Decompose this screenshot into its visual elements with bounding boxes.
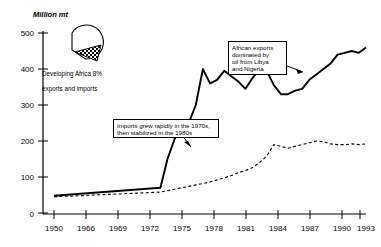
x-tick-1978: 1978 — [205, 224, 223, 233]
x-tick-1972: 1972 — [141, 224, 159, 233]
y-tick-100: 100 — [21, 173, 35, 182]
y-tick-500: 500 — [21, 29, 35, 38]
imports-callout-line-1: Imports grew rapidly in the 1970s, — [117, 122, 215, 129]
pie-caption-line-1: Developing Africa 8% — [42, 70, 102, 78]
x-axis-tick-labels: 1950 1966 1969 1972 1975 1978 1981 1984 … — [45, 224, 375, 233]
imports-callout-box: Imports grew rapidly in the 1970s, then … — [113, 119, 219, 138]
pie-caption: Developing Africa 8% exports and imports — [42, 62, 102, 100]
y-tick-200: 200 — [21, 137, 35, 146]
imports-callout-line-2: then stabilized in the 1980s — [117, 129, 215, 136]
chart-container: Million mt 500 400 300 200 100 0 — [0, 0, 381, 247]
x-tick-1993: 1993 — [357, 224, 375, 233]
x-tick-1969: 1969 — [109, 224, 127, 233]
x-tick-1975: 1975 — [173, 224, 191, 233]
x-tick-1966: 1966 — [77, 224, 95, 233]
y-tick-0: 0 — [30, 210, 35, 219]
developing-africa-pie-icon — [72, 25, 103, 61]
exports-callout-line-3: oil from Libya — [232, 58, 283, 65]
exports-callout-box: African exports dominated by oil from Li… — [228, 41, 287, 75]
exports-callout-line-2: dominated by — [232, 51, 283, 58]
x-tick-1950: 1950 — [45, 224, 63, 233]
x-tick-1984: 1984 — [269, 224, 287, 233]
x-tick-1990: 1990 — [333, 224, 351, 233]
exports-callout-line-1: African exports — [232, 44, 283, 51]
exports-callout-line-4: and Nigeria — [232, 65, 283, 72]
y-axis-tick-labels: 500 400 300 200 100 0 — [21, 29, 35, 219]
x-tick-1981: 1981 — [237, 224, 255, 233]
x-tick-1987: 1987 — [301, 224, 319, 233]
series-line-imports — [54, 141, 366, 197]
pie-caption-line-2: exports and imports — [42, 85, 102, 93]
y-tick-400: 400 — [21, 65, 35, 74]
y-axis-title: Million mt — [33, 10, 68, 19]
y-tick-300: 300 — [21, 101, 35, 110]
